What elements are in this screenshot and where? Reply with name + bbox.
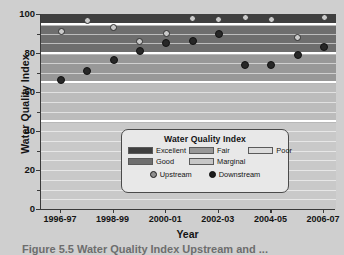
band-separator [41, 81, 336, 83]
gridline [41, 34, 336, 35]
legend-swatch-good [128, 158, 153, 165]
legend-swatch-marginal [189, 158, 214, 165]
x-tick-label: 2002-03 [190, 214, 246, 224]
y-tick-label: 20 [9, 164, 35, 175]
x-tick-label: 2004-05 [242, 214, 298, 224]
y-tick-minor [37, 190, 40, 191]
legend-label-fair: Fair [217, 146, 230, 155]
data-point-upstream [321, 14, 328, 21]
data-point-upstream [242, 14, 249, 21]
band-separator [41, 120, 336, 122]
y-tick-label: 0 [9, 203, 35, 214]
legend-column-1: Excellent Good [128, 146, 186, 166]
legend-item-fair: Fair [189, 146, 245, 155]
y-tick-minor [37, 151, 40, 152]
y-tick-major [36, 53, 40, 54]
y-tick-major [36, 14, 40, 15]
legend-swatch-poor [248, 147, 273, 154]
legend-column-2: Fair Marginal [189, 146, 245, 166]
data-point-downstream [83, 67, 91, 75]
gridline [41, 92, 336, 93]
x-tick-label: 1996-97 [32, 214, 88, 224]
data-point-upstream [58, 28, 65, 35]
data-point-downstream [294, 51, 302, 59]
y-tick-minor [37, 73, 40, 74]
legend-series-row: Upstream Downstream [128, 170, 282, 179]
legend-label-marginal: Marginal [217, 157, 245, 166]
legend-band-grid: Excellent Good Fair Marginal [128, 146, 282, 166]
data-point-downstream [241, 61, 249, 69]
legend-item-marginal: Marginal [189, 157, 245, 166]
legend-swatch-excellent [128, 147, 153, 154]
legend-item-downstream: Downstream [209, 170, 260, 179]
x-tick [113, 209, 114, 213]
legend-label-poor: Poor [276, 146, 292, 155]
data-point-downstream [189, 37, 197, 45]
data-point-downstream [215, 30, 223, 38]
y-tick-major [36, 209, 40, 210]
y-tick-major [36, 131, 40, 132]
y-tick-label: 100 [9, 8, 35, 19]
legend-title: Water Quality Index [128, 134, 282, 144]
gridline [41, 63, 336, 64]
gridline [41, 199, 336, 200]
legend-label-downstream: Downstream [219, 170, 260, 179]
y-tick-major [36, 170, 40, 171]
upstream-marker-icon [150, 171, 157, 178]
gridline [41, 112, 336, 113]
x-tick-label: 2006-07 [295, 214, 344, 224]
data-point-downstream [136, 47, 144, 55]
y-tick-label: 80 [9, 47, 35, 58]
legend-item-good: Good [128, 157, 186, 166]
chart-legend: Water Quality Index Excellent Good Fair [121, 129, 289, 193]
gridline [41, 102, 336, 103]
y-tick-label: 40 [9, 125, 35, 136]
x-tick [323, 209, 324, 213]
legend-label-good: Good [156, 157, 174, 166]
y-tick-major [36, 92, 40, 93]
figure-caption: Figure 5.5 Water Quality Index Upstream … [22, 243, 322, 255]
legend-label-excellent: Excellent [156, 146, 186, 155]
legend-item-poor: Poor [248, 146, 292, 155]
legend-item-upstream: Upstream [150, 170, 192, 179]
gridline [41, 43, 336, 44]
band-separator [41, 52, 336, 54]
y-tick-minor [37, 112, 40, 113]
data-point-upstream [163, 30, 170, 37]
x-tick-label: 1998-99 [85, 214, 141, 224]
x-tick-label: 2000-01 [137, 214, 193, 224]
x-tick [218, 209, 219, 213]
x-tick [165, 209, 166, 213]
legend-swatch-fair [189, 147, 214, 154]
legend-item-excellent: Excellent [128, 146, 186, 155]
y-tick-minor [37, 34, 40, 35]
x-axis-line [40, 209, 335, 210]
x-tick [270, 209, 271, 213]
data-point-downstream [110, 56, 118, 64]
y-tick-label: 60 [9, 86, 35, 97]
legend-column-3: Poor [248, 146, 292, 166]
x-axis-title: Year [40, 228, 335, 240]
x-tick [60, 209, 61, 213]
downstream-marker-icon [209, 171, 216, 178]
legend-label-upstream: Upstream [160, 170, 192, 179]
